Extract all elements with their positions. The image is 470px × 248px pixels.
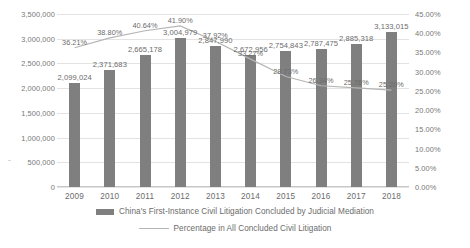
y-axis-right-tick-label: 35.00% (415, 48, 441, 57)
legend-line-swatch-icon (139, 228, 169, 229)
y-axis-right-tick-label: 15.00% (415, 125, 441, 134)
y-axis-left-tick-label: 2,500,000 (21, 59, 55, 68)
y-axis-right-tick-label: 25.00% (415, 87, 441, 96)
line-value-label: 28.73% (266, 67, 306, 76)
plot-area: 2,099,0242,371,6832,665,1783,004,9792,84… (57, 14, 409, 187)
decorative-speck (8, 160, 11, 161)
y-axis-right-tick-label: 10.00% (415, 145, 441, 154)
chart-container: 0500,0001,000,0001,500,0002,000,0002,500… (0, 0, 470, 248)
line-value-label: 38.80% (90, 28, 130, 37)
x-axis-tick-label: 2009 (55, 192, 95, 201)
x-axis-tick-label: 2010 (90, 192, 130, 201)
y-axis-left-tick-label: 1,000,000 (21, 134, 55, 143)
bar-value-label: 2,371,683 (87, 60, 133, 69)
line-value-label: 36.21% (55, 38, 95, 47)
legend-line-label: Percentage in All Concluded Civil Litiga… (174, 224, 332, 233)
line-value-label: 41.90% (160, 16, 200, 25)
y-axis-right-tick-label: 45.00% (415, 10, 441, 19)
x-axis-tick-label: 2012 (160, 192, 200, 201)
x-axis-tick-label: 2013 (195, 192, 235, 201)
legend-bar-swatch-icon (96, 209, 114, 215)
y-axis-left-tick-label: 1,500,000 (21, 109, 55, 118)
line-value-label: 25.20% (371, 80, 411, 89)
bar-value-label: 2,885,318 (333, 34, 379, 43)
y-axis-right-tick-label: 20.00% (415, 106, 441, 115)
line-value-label: 37.92% (195, 31, 235, 40)
bar-value-label: 2,665,178 (122, 45, 168, 54)
legend-item-line: Percentage in All Concluded Civil Litiga… (0, 224, 470, 233)
x-axis-tick-label: 2017 (336, 192, 376, 201)
line-value-label: 33.27% (231, 49, 271, 58)
y-axis-left-tick-label: 3,500,000 (21, 10, 55, 19)
y-axis-left-tick-label: 500,000 (28, 158, 55, 167)
y-axis-left-tick-label: 3,000,000 (21, 35, 55, 44)
legend-item-bars: China's First-Instance Civil Litigation … (0, 207, 470, 216)
y-axis-right-tick-label: 30.00% (415, 68, 441, 77)
x-axis-tick-label: 2016 (301, 192, 341, 201)
y-axis-left-tick-label: 0 (51, 183, 55, 192)
legend-bar-label: China's First-Instance Civil Litigation … (119, 207, 374, 216)
x-axis-tick-label: 2015 (266, 192, 306, 201)
bar-value-label: 3,133,015 (368, 22, 414, 31)
line-value-label: 26.34% (301, 76, 341, 85)
line-value-label: 40.64% (125, 21, 165, 30)
y-axis-right-tick-label: 0.00% (415, 183, 436, 192)
x-axis-tick-label: 2011 (125, 192, 165, 201)
y-axis-left-tick-label: 2,000,000 (21, 84, 55, 93)
line-value-label: 25.76% (336, 78, 376, 87)
gridline (57, 187, 409, 188)
x-axis-tick-label: 2018 (371, 192, 411, 201)
y-axis-right-tick-label: 40.00% (415, 29, 441, 38)
x-axis-tick-label: 2014 (231, 192, 271, 201)
y-axis-right-tick-label: 5.00% (415, 164, 436, 173)
bar-value-label: 2,099,024 (52, 73, 98, 82)
